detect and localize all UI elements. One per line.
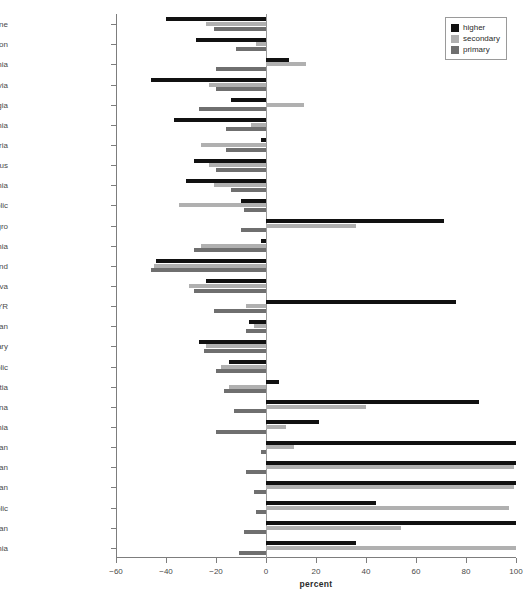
x-tick-label: 80 <box>462 567 471 576</box>
y-tick-label: Tajikistan <box>0 483 8 492</box>
bar-higher <box>156 259 266 263</box>
zero-reference-line <box>266 14 267 558</box>
bar-secondary <box>254 324 267 328</box>
bar-secondary <box>201 244 266 248</box>
y-tick <box>111 165 116 166</box>
y-tick-label: Georgia <box>0 100 8 109</box>
y-tick <box>111 266 116 267</box>
bar-secondary <box>206 22 266 26</box>
y-tick-label: Slovak Republic <box>0 201 8 210</box>
y-tick-label: Albania <box>0 543 8 552</box>
y-tick <box>111 306 116 307</box>
y-tick-label: Lithuania <box>0 60 8 69</box>
y-tick <box>111 105 116 106</box>
bar-higher <box>229 360 267 364</box>
x-tick-label: 40 <box>362 567 371 576</box>
legend-swatch-icon <box>451 24 459 32</box>
bar-secondary <box>266 405 366 409</box>
legend-label: primary <box>463 45 490 54</box>
x-axis-label: percent <box>116 579 516 589</box>
bar-higher <box>261 138 266 142</box>
bar-secondary <box>179 203 267 207</box>
bar-primary <box>236 47 266 51</box>
bar-higher <box>249 320 267 324</box>
bar-primary <box>239 551 267 555</box>
bar-secondary <box>266 546 516 550</box>
y-tick-label: Bosnia and Herzegovina <box>0 402 8 411</box>
x-tick-label: −40 <box>159 567 173 576</box>
bar-secondary <box>266 506 509 510</box>
bar-secondary <box>266 485 514 489</box>
y-tick <box>111 246 116 247</box>
bar-primary <box>224 389 267 393</box>
y-tick-label: Moldova <box>0 282 8 291</box>
bar-secondary <box>206 344 266 348</box>
y-tick <box>111 346 116 347</box>
y-tick <box>111 185 116 186</box>
bar-higher <box>151 78 266 82</box>
y-tick-label: Uzbekistan <box>0 443 8 452</box>
bar-higher <box>266 300 456 304</box>
bar-primary <box>246 470 266 474</box>
y-tick-label: Kazakhstan <box>0 322 8 331</box>
bar-higher <box>266 400 479 404</box>
bar-higher <box>266 541 356 545</box>
y-tick-label: Hungary <box>0 342 8 351</box>
bar-higher <box>266 420 319 424</box>
y-tick <box>111 467 116 468</box>
y-axis-line <box>116 14 117 558</box>
chart-legend: highersecondaryprimary <box>445 17 507 60</box>
y-tick-label: Belarus <box>0 161 8 170</box>
legend-swatch-icon <box>451 46 459 54</box>
y-tick <box>111 367 116 368</box>
bar-primary <box>254 490 267 494</box>
y-tick <box>111 508 116 509</box>
x-tick <box>316 558 317 563</box>
bar-secondary <box>246 304 266 308</box>
bar-secondary <box>266 62 306 66</box>
x-tick-label: 100 <box>509 567 522 576</box>
y-tick <box>111 44 116 45</box>
y-tick-label: Russian Federation <box>0 40 8 49</box>
x-tick <box>166 558 167 563</box>
bar-secondary <box>201 143 266 147</box>
bar-secondary <box>229 385 267 389</box>
bar-primary <box>226 127 266 131</box>
legend-swatch-icon <box>451 35 459 43</box>
y-tick-label: Croatia <box>0 382 8 391</box>
y-tick <box>111 24 116 25</box>
x-tick-label: 0 <box>264 567 268 576</box>
bar-secondary <box>266 465 514 469</box>
bar-higher <box>266 521 516 525</box>
bar-primary <box>241 228 266 232</box>
bar-primary <box>216 168 266 172</box>
x-tick <box>516 558 517 563</box>
x-tick <box>416 558 417 563</box>
bar-secondary <box>189 284 267 288</box>
bar-primary <box>244 208 267 212</box>
bar-higher <box>266 481 516 485</box>
y-tick <box>111 326 116 327</box>
bar-higher <box>266 58 289 62</box>
bar-secondary <box>214 183 267 187</box>
bar-secondary <box>266 224 356 228</box>
bar-secondary <box>256 42 266 46</box>
bar-primary <box>214 27 267 31</box>
y-tick-label: Estonia <box>0 120 8 129</box>
legend-label: secondary <box>463 34 500 43</box>
bar-secondary <box>266 425 286 429</box>
y-tick-label: Poland <box>0 261 8 270</box>
bar-secondary <box>154 264 267 268</box>
bar-primary <box>194 248 267 252</box>
plot-area: −60−40−20020406080100 percent <box>116 14 516 558</box>
bar-higher <box>266 501 376 505</box>
bar-secondary <box>209 83 267 87</box>
bar-higher <box>241 199 266 203</box>
y-tick <box>111 145 116 146</box>
bar-higher <box>261 239 266 243</box>
y-tick <box>111 427 116 428</box>
bar-secondary <box>266 445 294 449</box>
bar-secondary <box>266 526 401 530</box>
y-tick <box>111 487 116 488</box>
y-tick <box>111 387 116 388</box>
